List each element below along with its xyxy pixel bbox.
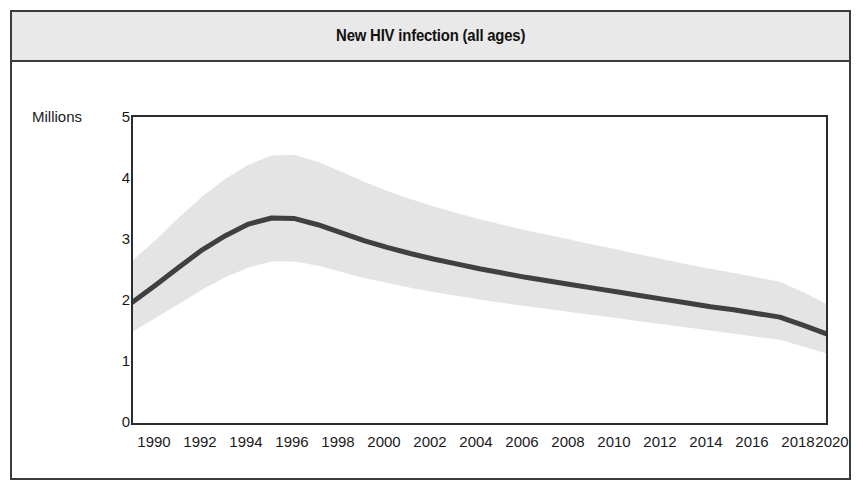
x-tick-label: 1992 bbox=[183, 434, 216, 449]
x-tick-label: 2004 bbox=[459, 434, 492, 449]
y-tick-label: 4 bbox=[108, 170, 130, 185]
x-tick-label: 2016 bbox=[735, 434, 768, 449]
x-tick-label: 2014 bbox=[689, 434, 722, 449]
x-tick-label: 2018 bbox=[781, 434, 814, 449]
x-tick-label: 2008 bbox=[551, 434, 584, 449]
y-tick-label: 2 bbox=[108, 292, 130, 307]
y-axis-unit-label: Millions bbox=[32, 108, 82, 125]
x-tick-label: 1996 bbox=[275, 434, 308, 449]
x-tick-label: 2002 bbox=[413, 434, 446, 449]
y-tick-label: 3 bbox=[108, 231, 130, 246]
y-axis-tick-labels: 5 4 3 2 1 0 bbox=[104, 64, 130, 478]
uncertainty-band bbox=[133, 155, 826, 353]
x-tick-label: 2006 bbox=[505, 434, 538, 449]
x-tick-label: 2020 bbox=[815, 434, 848, 449]
x-tick-label: 1994 bbox=[229, 434, 262, 449]
y-tick-label: 5 bbox=[108, 109, 130, 124]
x-tick-label: 1998 bbox=[321, 434, 354, 449]
x-tick-label: 2000 bbox=[367, 434, 400, 449]
chart-title-band: New HIV infection (all ages) bbox=[12, 12, 849, 62]
y-tick-label: 1 bbox=[108, 353, 130, 368]
plot-frame bbox=[131, 115, 828, 425]
y-tick-label: 0 bbox=[108, 414, 130, 429]
x-tick-label: 1990 bbox=[137, 434, 170, 449]
plot-area: Millions 5 4 3 2 1 0 1990 1992 1994 1996… bbox=[12, 64, 849, 478]
x-axis-tick-labels: 1990 1992 1994 1996 1998 2000 2002 2004 … bbox=[12, 434, 849, 464]
figure-container: New HIV infection (all ages) Millions 5 … bbox=[10, 10, 851, 480]
hiv-infections-line-chart bbox=[133, 117, 826, 423]
page-title: New HIV infection (all ages) bbox=[336, 27, 525, 45]
x-tick-label: 2010 bbox=[597, 434, 630, 449]
x-tick-label: 2012 bbox=[643, 434, 676, 449]
